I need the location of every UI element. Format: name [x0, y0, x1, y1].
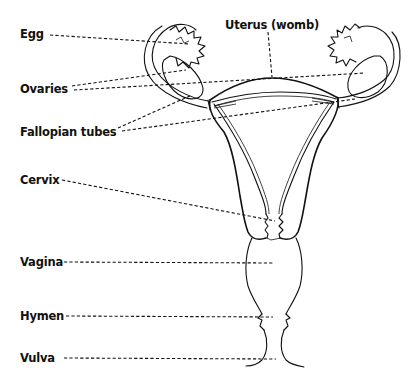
anatomy-illustration [0, 0, 419, 392]
right-fallopian-tube-drawing [328, 24, 400, 107]
label-cervix: Cervix [20, 173, 60, 187]
label-hymen: Hymen [20, 309, 64, 323]
leader-ovaries-left [72, 70, 186, 86]
vagina-drawing [246, 238, 304, 367]
leader-lines [50, 32, 365, 359]
leader-vagina [64, 262, 274, 263]
cervix-drawing [265, 214, 283, 240]
leader-hymen [66, 316, 273, 317]
leader-fallopian-right [122, 99, 355, 131]
label-uterus: Uterus (womb) [225, 18, 319, 32]
label-vagina: Vagina [20, 255, 63, 269]
label-ovaries: Ovaries [20, 82, 68, 96]
label-egg: Egg [20, 27, 44, 41]
uterus-drawing [208, 78, 339, 239]
leader-cervix [62, 180, 275, 221]
leader-uterus [268, 32, 272, 77]
leader-ovaries-right [74, 73, 365, 90]
right-ovary-drawing [348, 56, 387, 98]
reproductive-system-diagram: Egg Uterus (womb) Ovaries Fallopian tube… [0, 0, 419, 392]
label-vulva: Vulva [20, 351, 55, 365]
label-fallopian-tubes: Fallopian tubes [20, 125, 116, 139]
left-fallopian-tube-drawing [144, 24, 208, 108]
leader-vulva [64, 358, 276, 359]
leader-egg [50, 35, 190, 44]
